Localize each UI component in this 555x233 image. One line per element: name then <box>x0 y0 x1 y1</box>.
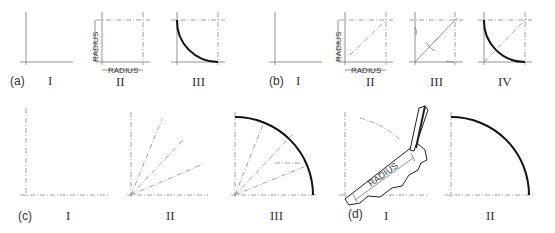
panel-c-step-2 <box>127 112 208 198</box>
panel-b-step-2 <box>338 12 393 70</box>
panel-c-step-1 <box>20 108 108 198</box>
construction-diagram: (a) I II III (b) I II III IV (c) I II II… <box>0 0 555 233</box>
panel-c-label: (c) <box>18 209 32 223</box>
panel-a-step-3 <box>171 12 225 65</box>
step-label: I <box>384 208 388 223</box>
step-label: I <box>48 73 52 88</box>
step-label: III <box>430 74 443 89</box>
panel-b-step-4 <box>478 12 532 65</box>
radius-label-vertical: RADIUS <box>334 32 343 62</box>
step-label: III <box>270 208 283 223</box>
radius-label-horizontal: RADIUS <box>351 66 381 75</box>
panel-d-label: (d) <box>348 207 363 221</box>
panel-d-step-2 <box>445 112 535 198</box>
step-label: II <box>486 208 495 223</box>
panel-a-step-2 <box>95 12 150 70</box>
panel-a-step-1 <box>20 12 73 65</box>
step-label: II <box>116 74 125 89</box>
panel-b-step-1 <box>269 12 322 65</box>
panel-b-step-3 <box>409 12 463 65</box>
step-label: II <box>366 74 375 89</box>
step-label: III <box>192 74 205 89</box>
panel-c-step-3 <box>231 112 318 198</box>
radius-label-horizontal: RADIUS <box>108 66 138 75</box>
step-label: II <box>166 208 175 223</box>
radius-label-vertical: RADIUS <box>91 32 100 62</box>
step-label: I <box>296 73 300 88</box>
panel-b-label: (b) <box>269 74 284 88</box>
step-label: IV <box>498 74 512 89</box>
panel-d-step-1 <box>339 106 428 205</box>
panel-a-label: (a) <box>10 74 25 88</box>
step-label: I <box>66 208 70 223</box>
